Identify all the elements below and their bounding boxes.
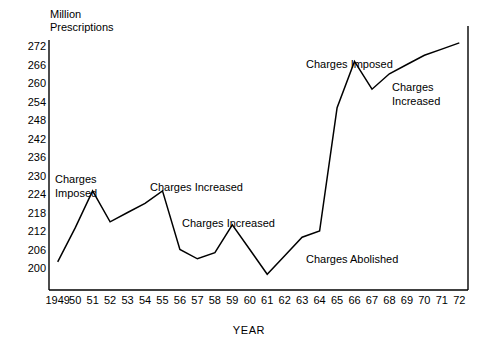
annotation-charges-imposed-1966: Charges Imposed — [306, 57, 393, 71]
annotation-charges-increased-1955: Charges Increased — [150, 180, 243, 194]
annotation-charges-abolished-1964: Charges Abolished — [306, 252, 398, 266]
annotation-charges-increased-1969: Charges Increased — [392, 80, 440, 108]
annotation-charges-increased-1959: Charges Increased — [182, 216, 275, 230]
annotation-line-1: Charges — [392, 81, 434, 93]
annotation-line-2: Imposed — [55, 187, 97, 199]
data-series-line — [58, 43, 460, 274]
chart-figure: Million Prescriptions 200206212218224230… — [0, 0, 498, 351]
annotation-charges-imposed-1950: Charges Imposed — [55, 172, 97, 200]
x-axis-title: YEAR — [0, 324, 498, 336]
annotation-line-1: Charges — [55, 173, 97, 185]
annotation-line-2: Increased — [392, 95, 440, 107]
